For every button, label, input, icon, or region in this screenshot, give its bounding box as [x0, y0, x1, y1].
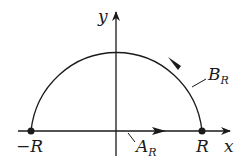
a-r-label: AR [134, 136, 157, 159]
x-axis-label: x [224, 136, 234, 156]
arc-arrow-icon [168, 57, 181, 70]
minus-r-label: −R [16, 136, 43, 156]
contour-diagram: y x −R R BR AR [0, 0, 246, 164]
point-r [199, 128, 206, 135]
point-minus-r [28, 128, 35, 135]
b-r-label: BR [207, 64, 229, 87]
r-label: R [195, 136, 209, 156]
b-r-leader [192, 79, 206, 87]
a-r-leader [128, 133, 135, 142]
y-axis-label: y [97, 6, 108, 26]
